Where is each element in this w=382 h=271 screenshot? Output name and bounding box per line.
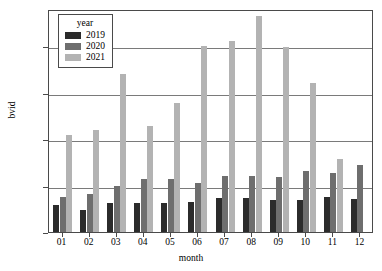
x-axis-tick-mark bbox=[305, 233, 306, 237]
bar-2021-07 bbox=[229, 41, 235, 232]
bar-2021-05 bbox=[174, 103, 180, 232]
bar-2021-01 bbox=[66, 135, 72, 232]
bar-2021-09 bbox=[283, 47, 289, 232]
x-axis-tick-label: 05 bbox=[155, 237, 185, 247]
bar-chart: bvid 05 00010 00015 00020 000 0102030405… bbox=[0, 0, 382, 271]
legend-swatch-2020 bbox=[65, 43, 81, 50]
x-axis-tick-label: 01 bbox=[47, 237, 77, 247]
bar-2019-01 bbox=[53, 205, 59, 232]
legend-item-2019[interactable]: 2019 bbox=[65, 30, 105, 41]
legend-items: 201920202021 bbox=[65, 30, 105, 63]
x-axis-tick-mark bbox=[224, 233, 225, 237]
bar-2019-11 bbox=[324, 197, 330, 232]
bar-2019-05 bbox=[161, 203, 167, 232]
bar-2021-04 bbox=[147, 126, 153, 232]
bar-2019-10 bbox=[297, 200, 303, 232]
x-axis-tick-label: 09 bbox=[263, 237, 293, 247]
bar-2019-03 bbox=[107, 203, 113, 232]
legend: year 201920202021 bbox=[58, 14, 113, 68]
bar-2019-04 bbox=[134, 203, 140, 232]
legend-item-2020[interactable]: 2020 bbox=[65, 41, 105, 52]
bar-2021-03 bbox=[120, 74, 126, 232]
legend-label-2021: 2021 bbox=[86, 52, 105, 63]
x-axis-label: month bbox=[0, 253, 382, 263]
x-axis-tick-label: 11 bbox=[317, 237, 347, 247]
legend-item-2021[interactable]: 2021 bbox=[65, 52, 105, 63]
x-axis-tick-label: 03 bbox=[101, 237, 131, 247]
bar-2020-12 bbox=[357, 165, 363, 232]
bar-2020-08 bbox=[249, 176, 255, 232]
x-axis-tick-mark bbox=[170, 233, 171, 237]
x-axis-tick-mark bbox=[143, 233, 144, 237]
bar-2020-10 bbox=[303, 171, 309, 232]
bar-2019-06 bbox=[188, 202, 194, 232]
bar-2020-05 bbox=[168, 179, 174, 232]
x-axis-tick-label: 07 bbox=[209, 237, 239, 247]
legend-swatch-2021 bbox=[65, 54, 81, 61]
x-axis-tick-mark bbox=[116, 233, 117, 237]
bar-2019-09 bbox=[270, 200, 276, 232]
bar-2020-07 bbox=[222, 176, 228, 232]
x-axis-tick-mark bbox=[251, 233, 252, 237]
x-axis-tick-mark bbox=[278, 233, 279, 237]
bar-2020-06 bbox=[195, 183, 201, 232]
y-axis-label: bvid bbox=[7, 80, 17, 140]
x-axis-tick-label: 04 bbox=[128, 237, 158, 247]
bar-2019-08 bbox=[243, 198, 249, 232]
bar-2021-08 bbox=[256, 16, 262, 232]
bar-2020-01 bbox=[60, 197, 66, 232]
x-axis-tick-mark bbox=[359, 233, 360, 237]
x-axis-tick-mark bbox=[197, 233, 198, 237]
legend-swatch-2019 bbox=[65, 32, 81, 39]
bar-2020-11 bbox=[330, 173, 336, 232]
x-axis-tick-mark bbox=[332, 233, 333, 237]
legend-label-2019: 2019 bbox=[86, 30, 105, 41]
x-axis-tick-label: 12 bbox=[344, 237, 374, 247]
legend-label-2020: 2020 bbox=[86, 41, 105, 52]
y-axis-tick-mark bbox=[43, 233, 48, 234]
bar-2020-02 bbox=[87, 194, 93, 232]
x-axis-tick-label: 10 bbox=[290, 237, 320, 247]
bar-2021-11 bbox=[337, 159, 343, 232]
x-axis-tick-mark bbox=[89, 233, 90, 237]
x-axis-tick-label: 02 bbox=[74, 237, 104, 247]
bar-2021-06 bbox=[201, 46, 207, 232]
bar-2020-03 bbox=[114, 186, 120, 232]
legend-title: year bbox=[65, 18, 105, 29]
x-axis-tick-label: 06 bbox=[182, 237, 212, 247]
bar-2020-09 bbox=[276, 177, 282, 232]
bar-2019-02 bbox=[80, 210, 86, 232]
x-axis-tick-label: 08 bbox=[236, 237, 266, 247]
bar-2019-07 bbox=[216, 198, 222, 232]
x-axis-tick-mark bbox=[62, 233, 63, 237]
bar-2021-10 bbox=[310, 83, 316, 232]
bar-2020-04 bbox=[141, 179, 147, 232]
bar-2021-02 bbox=[93, 130, 99, 232]
bar-2019-12 bbox=[351, 199, 357, 232]
